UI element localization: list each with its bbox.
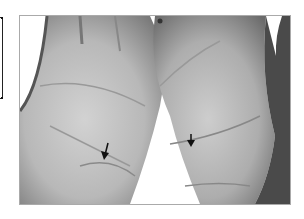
palms-illustration <box>20 16 290 204</box>
left-bracket-mark <box>0 17 3 99</box>
palm-photograph <box>19 15 291 205</box>
left-palm <box>20 16 163 204</box>
